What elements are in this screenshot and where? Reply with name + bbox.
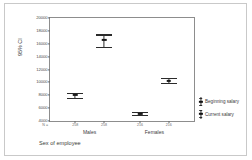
- y-axis-tick-label: 12000: [8, 67, 51, 71]
- x-axis-n-label: 216: [137, 123, 143, 127]
- error-bar-marker: [161, 18, 177, 121]
- legend-item-current-salary: Current salary: [198, 110, 250, 119]
- n-count-prefix: N =: [42, 123, 48, 127]
- y-axis-tick-label: 14000: [8, 55, 51, 59]
- error-bar-marker: [132, 18, 148, 121]
- y-axis-tick-label: 6000: [8, 106, 51, 110]
- x-axis-title: Sex of employee: [39, 140, 81, 146]
- chart-frame: 95% CI Sex of employee 20000180001600014…: [4, 3, 247, 156]
- y-axis-tick-label: 10000: [8, 80, 51, 84]
- x-axis-n-label: 258: [72, 123, 78, 127]
- x-axis-group-label: Males: [83, 129, 96, 135]
- x-axis-n-label: 216: [166, 123, 172, 127]
- chart-legend: Beginning salary Current salary: [198, 97, 250, 122]
- plot-area: 2000018000160001400012000100008000600040…: [49, 17, 195, 122]
- y-axis-tick-label: 16000: [8, 42, 51, 46]
- error-bar-icon: [198, 97, 203, 106]
- x-axis-group-label: Females: [145, 129, 164, 135]
- error-bar-icon: [198, 110, 203, 119]
- error-bar-marker: [67, 18, 83, 121]
- error-bar-marker: [96, 18, 112, 121]
- y-axis-tick-label: 18000: [8, 29, 51, 33]
- legend-label: Beginning salary: [205, 99, 239, 104]
- y-axis-tick-label: 8000: [8, 93, 51, 97]
- legend-item-beginning-salary: Beginning salary: [198, 97, 250, 106]
- x-axis-n-label: 258: [101, 123, 107, 127]
- y-axis-tick-label: 20000: [8, 16, 51, 20]
- legend-label: Current salary: [205, 112, 234, 117]
